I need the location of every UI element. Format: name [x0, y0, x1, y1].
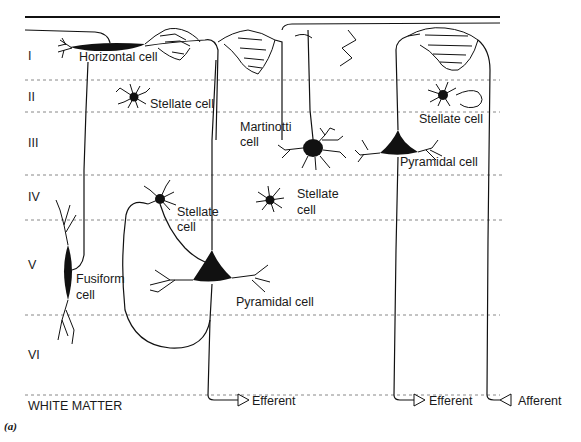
- pyramidal-cell-V-neuron: [150, 60, 270, 406]
- layer-label-IV: IV: [28, 190, 40, 204]
- label-martinotti-cell-1: Martinotti: [240, 120, 291, 134]
- cortex-layers-diagram: I II III IV V VI WHITE MATTER Horizontal…: [0, 0, 581, 442]
- stellate-cell-II-right-neuron: [428, 82, 482, 108]
- stellate-cell-IV-isolated-neuron: [256, 186, 284, 212]
- label-stellate-cell-II: Stellate cell: [150, 97, 214, 111]
- layer-label-V: V: [28, 258, 36, 272]
- label-stellate-cell-IV-1: Stellate: [177, 205, 219, 219]
- label-stellate-cell-IVb-2: cell: [297, 203, 316, 217]
- label-stellate-cell-IV-2: cell: [177, 220, 196, 234]
- afferent-arrow-icon: [500, 394, 511, 406]
- layer-label-VI: VI: [28, 348, 40, 362]
- panel-label: (a): [4, 420, 17, 432]
- axon-arbor-right: [295, 28, 500, 400]
- label-pyramidal-cell-III: Pyramidal cell: [400, 155, 478, 169]
- label-efferent-2: Efferent: [429, 394, 473, 408]
- label-fusiform-cell-1: Fusiform: [76, 272, 125, 286]
- layer-label-III: III: [28, 136, 38, 150]
- neuron-drawing: [0, 0, 581, 442]
- label-pyramidal-cell-V: Pyramidal cell: [236, 295, 314, 309]
- label-martinotti-cell-2: cell: [240, 135, 259, 149]
- label-efferent-1: Efferent: [252, 394, 296, 408]
- martinotti-cell-neuron: [278, 30, 346, 170]
- label-fusiform-cell-2: cell: [76, 288, 95, 302]
- label-stellate-cell-IVb-1: Stellate: [297, 187, 339, 201]
- label-afferent: Afferent: [518, 394, 562, 408]
- label-stellate-cell-II-right: Stellate cell: [419, 112, 483, 126]
- label-horizontal-cell: Horizontal cell: [79, 50, 158, 64]
- layer-label-I: I: [28, 49, 31, 63]
- layer-label-white-matter: WHITE MATTER: [28, 399, 122, 413]
- layer-label-II: II: [28, 90, 35, 104]
- stellate-cell-II-neuron: [116, 84, 150, 108]
